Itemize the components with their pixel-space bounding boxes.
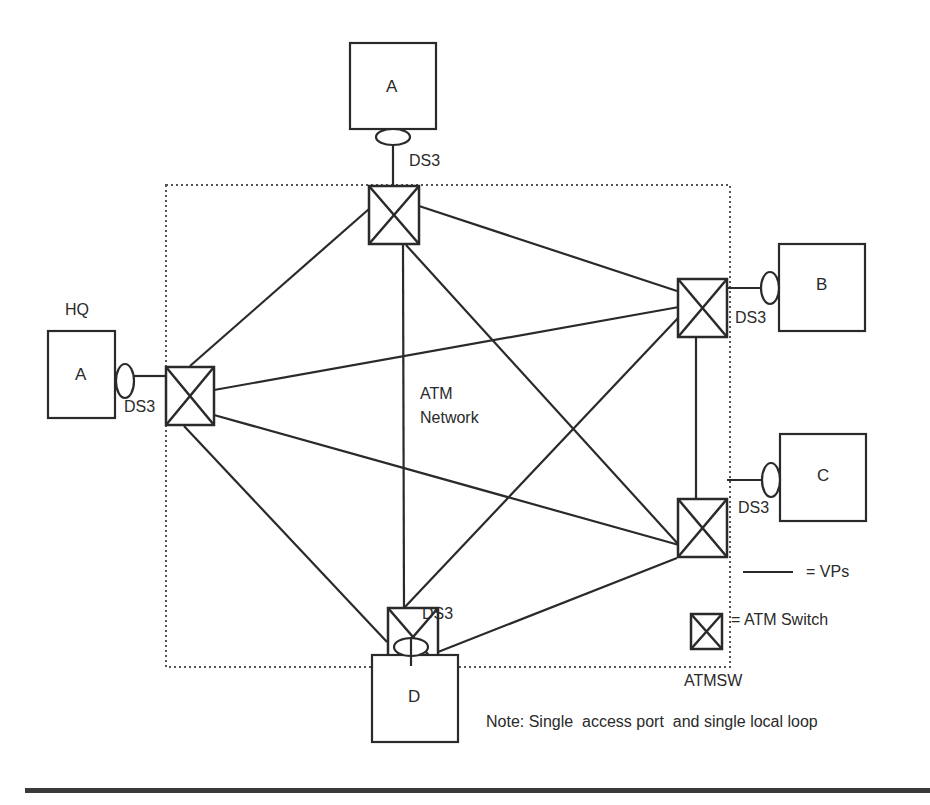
ds3-label-top: DS3 [409,153,440,169]
atm-switch-right-top [678,279,727,337]
atm-switch-top [369,186,419,244]
ds3-label-hq: DS3 [124,399,155,415]
ds3-label-c: DS3 [738,500,769,516]
site-c-label: C [817,467,829,484]
vp-link-top-left [190,209,369,366]
legend-switch-icon [691,614,722,649]
vp-link-bottom-rightbottom [438,558,677,652]
legend-switch-abbrev: ATMSW [684,673,742,689]
ds3-port-hq [116,364,134,398]
ds3-label-b: DS3 [735,310,766,326]
vp-link-left-rightbottom [214,415,679,545]
ds3-label-d: DS3 [422,606,453,622]
atm-network-label-line2: Network [420,410,479,426]
ds3-port-c [762,463,780,497]
vp-link-left-bottom [184,426,387,642]
atm-network-label-line1: ATM [420,386,453,402]
note-text: Note: Single access port and single loca… [486,714,818,730]
vp-link-top-righttop [419,206,677,291]
ds3-port-b [761,272,779,304]
site-d-label: D [408,688,420,705]
atm-switch-right-bottom [678,499,727,557]
vp-links [184,206,696,652]
vp-link-bottom-righttop [404,317,679,608]
ds3-port-top [376,129,410,145]
site-a-top-label: A [386,78,397,95]
vp-link-top-bottom [403,245,404,608]
hq-label: HQ [65,302,89,318]
site-b-label: B [816,276,827,293]
legend-vp-label: = VPs [806,564,849,580]
vp-link-left-righttop [214,307,679,390]
bottom-rule [25,788,930,793]
legend-switch-label: = ATM Switch [731,612,828,628]
site-hq-a-label: A [75,366,86,383]
atm-switch-left [166,367,214,425]
